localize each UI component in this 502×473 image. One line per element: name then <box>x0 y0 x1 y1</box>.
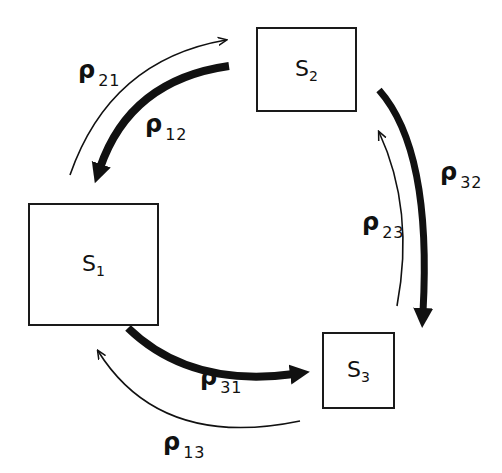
state-label-s3: S3 <box>347 357 370 385</box>
label-rho32: ρ32 <box>440 160 483 191</box>
label-rho31: ρ31 <box>200 365 243 396</box>
label-rho23: ρ23 <box>362 210 405 241</box>
label-rho12: ρ12 <box>145 112 188 143</box>
label-rho21: ρ21 <box>78 58 121 89</box>
state-label-s1: S1 <box>82 251 105 279</box>
label-rho13: ρ13 <box>163 430 206 461</box>
state-label-s2: S2 <box>295 56 318 84</box>
state-box-s3: S3 <box>322 332 395 409</box>
arrow-rho13 <box>98 351 300 428</box>
state-box-s1: S1 <box>28 203 159 326</box>
state-box-s2: S2 <box>256 27 357 112</box>
